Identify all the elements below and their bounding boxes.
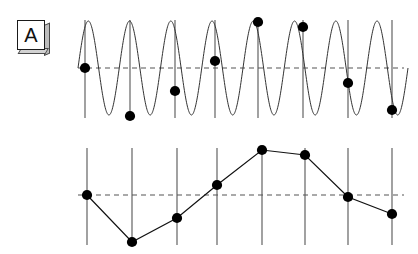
panel-b: B bbox=[0, 127, 418, 254]
panel-a: A bbox=[0, 0, 418, 127]
panel-label-a-text: A bbox=[24, 25, 37, 45]
panel-b-plot bbox=[0, 127, 418, 254]
sample-dot-4 bbox=[212, 180, 222, 190]
sample-dot-7 bbox=[343, 192, 353, 202]
sample-dot-3 bbox=[172, 213, 182, 223]
sample-dot-1 bbox=[82, 190, 92, 200]
panel-label-a: A bbox=[17, 20, 51, 56]
panel-a-plot bbox=[0, 0, 418, 127]
sample-dot-5 bbox=[257, 145, 267, 155]
sample-dots-group bbox=[80, 17, 397, 121]
sample-dot-4 bbox=[210, 56, 220, 66]
sample-dot-2 bbox=[125, 111, 135, 121]
sample-dot-6 bbox=[300, 150, 310, 160]
sample-dot-1 bbox=[80, 63, 90, 73]
sample-dot-7 bbox=[343, 78, 353, 88]
sample-dot-8 bbox=[387, 105, 397, 115]
label-a-card: A bbox=[17, 20, 45, 50]
sample-dot-8 bbox=[387, 209, 397, 219]
sample-dot-6 bbox=[298, 22, 308, 32]
figure-root: A B bbox=[0, 0, 418, 254]
sample-dot-5 bbox=[253, 17, 263, 27]
sample-dots-group bbox=[82, 145, 397, 247]
sample-dot-3 bbox=[170, 86, 180, 96]
sample-dot-2 bbox=[127, 237, 137, 247]
